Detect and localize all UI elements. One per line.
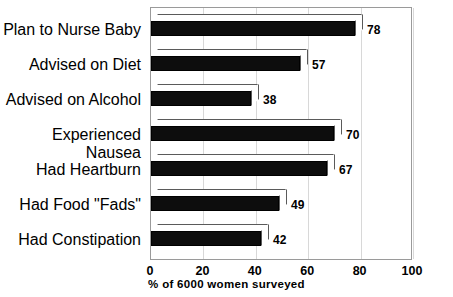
- gridline-100: [413, 8, 414, 259]
- x-axis-title: % of 6000 women surveyed: [0, 278, 453, 290]
- bar-value-label: 78: [367, 23, 380, 37]
- bar-value-label: 38: [263, 93, 276, 107]
- bar-front-face: [151, 231, 261, 246]
- category-label: Experienced Nausea: [0, 126, 141, 162]
- gridline-80: [361, 8, 362, 259]
- bar-front-face: [151, 21, 355, 36]
- category-label: Had Food "Fads": [0, 196, 141, 214]
- bar-value-label: 49: [291, 198, 304, 212]
- bar-front-face: [151, 196, 279, 211]
- category-label: Plan to Nurse Baby: [0, 21, 141, 39]
- bar-chart: Plan to Nurse BabyAdvised on DietAdvised…: [0, 0, 453, 297]
- category-label: Advised on Diet: [0, 56, 141, 74]
- x-tick-40: 40: [235, 264, 275, 278]
- x-tick-20: 20: [182, 264, 222, 278]
- bar-value-label: 42: [273, 233, 286, 247]
- bar-front-face: [151, 56, 300, 71]
- bar-value-label: 57: [312, 58, 325, 72]
- x-tick-100: 100: [392, 264, 432, 278]
- bar-front-face: [151, 126, 334, 141]
- category-label: Had Heartburn: [0, 161, 141, 179]
- plot-area: [150, 7, 412, 260]
- bar-value-label: 67: [339, 163, 352, 177]
- x-tick-80: 80: [340, 264, 380, 278]
- category-label: Had Constipation: [0, 231, 141, 249]
- x-tick-0: 0: [130, 264, 170, 278]
- x-tick-60: 60: [287, 264, 327, 278]
- bar-front-face: [151, 161, 327, 176]
- bar-front-face: [151, 91, 251, 106]
- bar-value-label: 70: [346, 128, 359, 142]
- category-label: Advised on Alcohol: [0, 91, 141, 109]
